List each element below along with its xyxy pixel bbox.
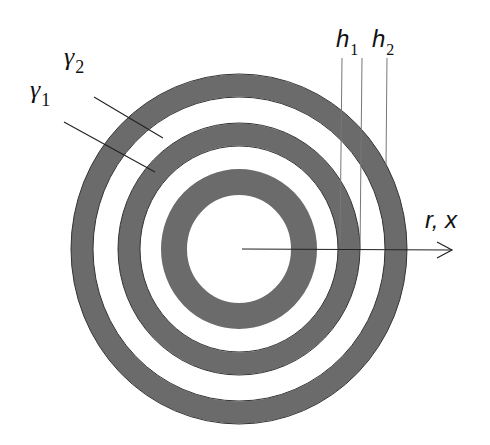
gamma1-label: γ1: [30, 75, 50, 110]
h1-label: h1: [336, 25, 358, 58]
axis-label: r, x: [425, 206, 458, 233]
concentric-rings-diagram: γ2 γ1 h1 h2 r, x: [0, 0, 490, 445]
gamma2-label: γ2: [64, 42, 84, 77]
h2-label: h2: [372, 25, 394, 58]
h2-leader-right: [386, 58, 387, 165]
